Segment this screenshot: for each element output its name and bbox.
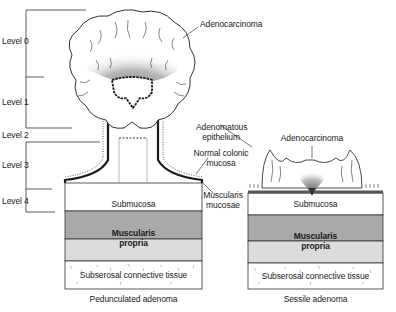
muscularis-mucosae-label: Muscularis mucosae [200, 190, 246, 210]
level-0-label: Level 0 [2, 36, 29, 46]
level-1-label: Level 1 [2, 97, 29, 107]
level-3-label: Level 3 [2, 160, 29, 170]
pedunculated-caption: Pedunculated adenoma [65, 294, 202, 304]
sessile-submucosa-label: Submucosa [248, 199, 383, 209]
sessile-caption: Sessile adenoma [248, 294, 383, 304]
adenomatous-epithelium-label: Adenomatous epithelium [196, 122, 246, 142]
pedunculated-submucosa-label: Submucosa [65, 199, 202, 209]
adenomatous-line-1: Adenomatous [196, 122, 246, 132]
adenomatous-line-2: epithelium [196, 132, 246, 142]
normal-colonic-line-2: mucosa [191, 158, 251, 168]
pedunculated-muscularis-line-2: propria [65, 238, 202, 248]
pedunculated-subserosal-label: Subserosal connective tissue [65, 270, 202, 280]
sessile-muscularis-propria-label: Muscularis propria [248, 231, 383, 251]
level-4-label: Level 4 [2, 196, 29, 206]
sessile-muscularis-line-2: propria [248, 241, 383, 251]
pedunculated-head [69, 10, 195, 129]
muscularis-mucosae-line-2: mucosae [200, 200, 246, 210]
muscularis-mucosae-line-1: Muscularis [200, 190, 246, 200]
pedunculated-adenocarcinoma-label: Adenocarcinoma [200, 19, 262, 29]
sessile-subserosal-label: Subserosal connective tissue [248, 271, 383, 281]
pedunculated-muscularis-propria-label: Muscularis propria [65, 228, 202, 248]
normal-colonic-line-1: Normal colonic [191, 148, 251, 158]
sessile-muscularis-line-1: Muscularis [248, 231, 383, 241]
level-2-label: Level 2 [2, 130, 29, 140]
sessile-adenocarcinoma-label: Adenocarcinoma [280, 133, 344, 143]
pedunculated-muscularis-line-1: Muscularis [65, 228, 202, 238]
sessile-lesion [250, 150, 378, 196]
normal-colonic-mucosa-label: Normal colonic mucosa [191, 148, 251, 168]
